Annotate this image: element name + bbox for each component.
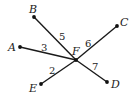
point-labels-group: FABCDE [7, 3, 129, 95]
segment-fe [41, 60, 76, 84]
point-f-label: F [71, 45, 80, 58]
geometry-diagram: 35672 FABCDE [0, 0, 133, 102]
point-d-label: D [110, 78, 120, 91]
segment-length-label: 6 [85, 38, 91, 49]
point-e-dot [39, 82, 43, 86]
point-c-dot [115, 24, 119, 28]
point-a-label: A [7, 41, 16, 54]
point-a-dot [18, 45, 22, 49]
segment-length-label: 3 [41, 42, 47, 53]
point-b-label: B [28, 3, 37, 16]
point-d-dot [105, 80, 109, 84]
segment-length-label: 7 [92, 61, 98, 72]
segments-group [20, 17, 117, 84]
segment-fa [20, 47, 76, 60]
point-f-dot [74, 58, 78, 62]
point-c-label: C [120, 16, 129, 29]
point-e-label: E [28, 82, 37, 95]
segment-length-label: 5 [59, 31, 65, 42]
segment-fc [76, 26, 117, 60]
segment-fb [34, 17, 76, 60]
segment-length-label: 2 [49, 65, 55, 76]
